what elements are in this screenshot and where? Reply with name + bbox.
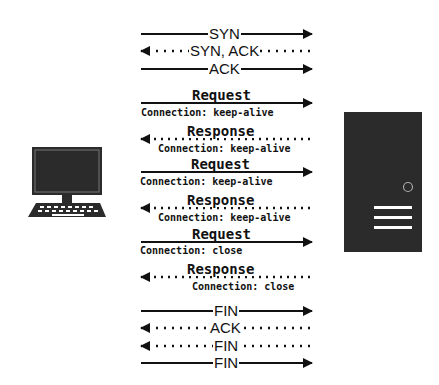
teardown-fin-2-label: FIN bbox=[213, 338, 239, 353]
handshake-synack-label: SYN, ACK bbox=[189, 43, 260, 58]
message-4-header: Connection: keep-alive bbox=[158, 213, 290, 223]
message-2-label: Response bbox=[186, 124, 255, 138]
handshake-ack-label: ACK bbox=[208, 61, 241, 76]
message-6-header: Connection: close bbox=[192, 282, 294, 292]
message-5-header: Connection: close bbox=[140, 246, 242, 256]
message-3-header: Connection: keep-alive bbox=[140, 177, 272, 187]
message-1-label: Request bbox=[191, 88, 252, 102]
teardown-ack-label: ACK bbox=[209, 320, 242, 335]
teardown-fin-1-label: FIN bbox=[213, 303, 239, 318]
teardown-fin-3-label: FIN bbox=[213, 355, 239, 370]
message-1-header: Connection: keep-alive bbox=[141, 108, 273, 118]
handshake-syn-label: SYN bbox=[208, 26, 241, 41]
message-6-label: Response bbox=[186, 262, 255, 276]
message-4-label: Response bbox=[186, 193, 255, 207]
message-5-label: Request bbox=[191, 227, 252, 241]
message-3-label: Request bbox=[190, 157, 251, 171]
message-2-header: Connection: keep-alive bbox=[158, 144, 290, 154]
